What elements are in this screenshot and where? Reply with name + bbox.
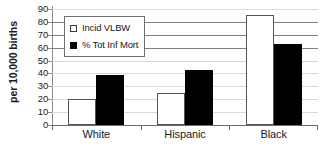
bar-black-incid-vlbw	[246, 15, 274, 125]
bar-hispanic-pct-tot-inf-mort	[185, 70, 213, 125]
legend-item-2: % Tot Inf Mort	[70, 38, 138, 52]
chart-figure: per 10,000 births 9080706050403020100 Wh…	[0, 0, 329, 146]
chart-legend: Incid VLBW% Tot Inf Mort	[64, 16, 145, 57]
x-tick-label-black: Black	[260, 127, 286, 141]
bar-black-pct-tot-inf-mort	[274, 44, 302, 125]
legend-label-2: % Tot Inf Mort	[82, 40, 138, 50]
bar-white-pct-tot-inf-mort	[96, 75, 124, 125]
y-tick-60	[48, 48, 52, 49]
open-square-icon	[70, 25, 77, 32]
y-axis-tick-labels: 9080706050403020100	[22, 8, 48, 126]
y-tick-label-50: 50	[22, 56, 48, 66]
y-tick-20	[48, 99, 52, 100]
y-tick-80	[48, 22, 52, 23]
y-tick-label-60: 60	[22, 43, 48, 53]
bar-hispanic-incid-vlbw	[157, 93, 185, 125]
y-tick-90	[48, 9, 52, 10]
y-tick-label-10: 10	[22, 107, 48, 117]
y-axis-line	[52, 6, 53, 126]
y-tick-70	[48, 35, 52, 36]
y-tick-label-90: 90	[22, 4, 48, 14]
x-axis-tick-labels: WhiteHispanicBlack	[52, 127, 318, 143]
y-tick-40	[48, 73, 52, 74]
y-tick-10	[48, 112, 52, 113]
y-tick-label-0: 0	[22, 120, 48, 130]
bar-white-incid-vlbw	[68, 99, 96, 125]
y-axis-title-container: per 10,000 births	[0, 0, 22, 146]
y-tick-50	[48, 61, 52, 62]
x-tick-label-hispanic: Hispanic	[164, 127, 205, 141]
x-axis-line	[52, 125, 318, 126]
y-tick-label-40: 40	[22, 69, 48, 79]
y-tick-label-30: 30	[22, 82, 48, 92]
gridline-90	[52, 9, 318, 10]
y-tick-label-80: 80	[22, 17, 48, 27]
y-tick-label-20: 20	[22, 94, 48, 104]
y-tick-label-70: 70	[22, 30, 48, 40]
filled-square-icon	[70, 42, 77, 49]
legend-label-1: Incid VLBW	[82, 23, 130, 33]
legend-item-1: Incid VLBW	[70, 21, 138, 35]
y-tick-30	[48, 86, 52, 87]
y-axis-title: per 10,000 births	[7, 7, 19, 117]
x-tick-label-white: White	[83, 127, 111, 141]
